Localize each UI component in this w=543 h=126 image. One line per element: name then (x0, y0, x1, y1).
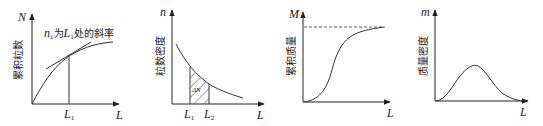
panel-count-density: n L 粒数密度 ΔN L1 L2 (154, 5, 264, 122)
y-axis-symbol: n (160, 5, 166, 19)
slope-annotation: n1为L1处的斜率 (44, 26, 114, 41)
x-axis-symbol: L (519, 105, 527, 119)
cumulative-mass-curve (304, 27, 384, 102)
y-axis-label: 累积质量 (286, 36, 297, 76)
y-axis-label: 质量密度 (417, 36, 429, 76)
marker-l1: L1 (183, 107, 195, 122)
panel-cumulative-count: N L 累积粒数 n1为L1处的斜率 L1 (12, 10, 123, 122)
y-axis-symbol: N (17, 10, 27, 24)
marker-l1: L1 (63, 107, 75, 122)
y-axis-symbol: M (288, 7, 300, 21)
delta-n-label: ΔN (191, 86, 201, 94)
panel-mass-density: m L 质量密度 (417, 5, 528, 119)
x-axis-symbol: L (115, 108, 123, 122)
cumulative-curve (32, 42, 113, 104)
mass-density-curve (436, 65, 522, 101)
x-axis-symbol: L (256, 108, 264, 122)
panel-cumulative-mass: M L 累积质量 (286, 7, 394, 120)
y-axis-label: 累积粒数 (12, 40, 24, 80)
y-axis-symbol: m (421, 5, 430, 19)
x-axis-symbol: L (386, 106, 394, 120)
y-axis-label: 粒数密度 (154, 36, 166, 76)
marker-l2: L2 (203, 107, 215, 122)
